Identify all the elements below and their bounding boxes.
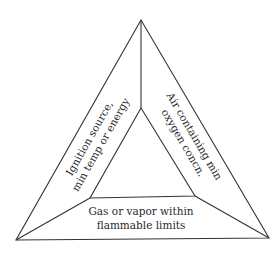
- connector-bottom-left: [16, 198, 90, 240]
- bottom-panel-label: Gas or vapor within flammable limits: [88, 205, 193, 231]
- bottom-label-line-2: flammable limits: [97, 219, 186, 231]
- connector-bottom-right: [195, 196, 269, 238]
- left-panel-label: Ignition source, min temp or energy: [58, 89, 132, 193]
- right-panel-label: Air containing min oxygen concn.: [153, 89, 225, 188]
- bottom-label-line-1: Gas or vapor within: [88, 205, 193, 217]
- fire-triangle-diagram: Ignition source, min temp or energy Air …: [0, 0, 280, 260]
